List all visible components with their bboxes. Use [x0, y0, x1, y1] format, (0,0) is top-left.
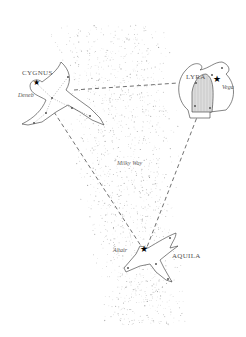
- milky-way-band: [51, 25, 185, 325]
- altair-label: Altair: [113, 247, 127, 253]
- altair-star-icon: ★: [140, 244, 148, 254]
- vega-label: Vega: [222, 84, 234, 90]
- lyra-figure: [179, 62, 234, 118]
- cygnus-label: CYGNUS: [22, 70, 53, 77]
- deneb-star-icon: ★: [33, 78, 40, 87]
- summer-triangle-diagram: ★ ★ ★: [0, 0, 246, 337]
- vega-star-icon: ★: [213, 74, 221, 84]
- aquila-label: AQUILA: [172, 253, 201, 260]
- deneb-label: Deneb: [18, 92, 34, 98]
- lyra-label: LYRA: [186, 74, 206, 81]
- milky-way-label: Milky Way: [117, 160, 142, 166]
